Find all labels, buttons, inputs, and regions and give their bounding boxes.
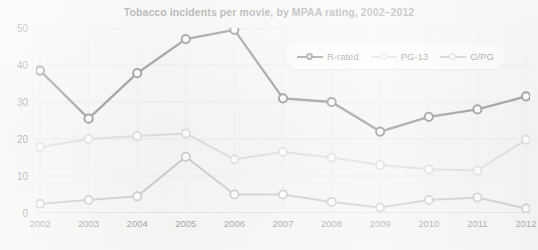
x-axis-tick-label: 2010 bbox=[418, 218, 439, 229]
x-axis-tick-label: 2011 bbox=[467, 218, 487, 229]
y-axis-tick-label: 10 bbox=[17, 171, 28, 182]
legend-swatch-icon bbox=[297, 52, 323, 62]
data-point bbox=[36, 200, 44, 208]
legend-item-r-rated[interactable]: R-rated bbox=[297, 51, 359, 62]
legend-item-pg-13[interactable]: PG-13 bbox=[371, 51, 428, 62]
data-point bbox=[279, 190, 287, 198]
y-axis-tick-label: 50 bbox=[17, 23, 28, 34]
data-point bbox=[182, 129, 190, 137]
x-axis-tick-label: 2004 bbox=[127, 218, 148, 229]
x-axis: 2002200320042005200620072008200920102011… bbox=[36, 218, 530, 240]
x-axis-tick-label: 2006 bbox=[224, 218, 245, 229]
data-point bbox=[230, 190, 238, 198]
data-point bbox=[36, 143, 44, 151]
data-point bbox=[85, 115, 93, 123]
data-point bbox=[376, 128, 384, 136]
data-point bbox=[230, 155, 238, 163]
data-point bbox=[522, 92, 530, 100]
legend-swatch-icon bbox=[440, 52, 466, 62]
legend-label: R-rated bbox=[327, 51, 359, 62]
x-axis-tick-label: 2002 bbox=[29, 218, 50, 229]
data-point bbox=[328, 198, 336, 206]
x-axis-tick-label: 2012 bbox=[515, 218, 536, 229]
data-point bbox=[36, 66, 44, 74]
chart-legend: R-ratedPG-13G/PG bbox=[286, 44, 505, 69]
data-point bbox=[473, 193, 481, 201]
data-point bbox=[522, 136, 530, 144]
data-point bbox=[425, 113, 433, 121]
data-point bbox=[182, 153, 190, 161]
data-point bbox=[182, 35, 190, 43]
y-axis-tick-label: 30 bbox=[17, 97, 28, 108]
x-axis-tick-label: 2003 bbox=[78, 218, 99, 229]
data-point bbox=[425, 196, 433, 204]
x-axis-tick-label: 2005 bbox=[175, 218, 196, 229]
y-axis-tick-label: 40 bbox=[17, 60, 28, 71]
x-axis-tick-label: 2007 bbox=[272, 218, 293, 229]
data-point bbox=[279, 94, 287, 102]
data-point bbox=[522, 204, 530, 212]
y-axis-tick-label: 0 bbox=[22, 208, 28, 219]
data-point bbox=[473, 105, 481, 113]
legend-item-g-pg[interactable]: G/PG bbox=[440, 51, 494, 62]
data-point bbox=[425, 165, 433, 173]
data-point bbox=[376, 203, 384, 211]
legend-swatch-icon bbox=[371, 52, 397, 62]
data-point bbox=[133, 69, 141, 77]
x-axis-tick-label: 2008 bbox=[321, 218, 342, 229]
data-point bbox=[328, 153, 336, 161]
x-axis-tick-label: 2009 bbox=[370, 218, 391, 229]
y-axis-tick-label: 20 bbox=[17, 134, 28, 145]
data-point bbox=[133, 192, 141, 200]
data-point bbox=[85, 196, 93, 204]
data-point bbox=[85, 135, 93, 143]
data-point bbox=[279, 148, 287, 156]
data-point bbox=[230, 28, 238, 34]
legend-label: PG-13 bbox=[401, 51, 428, 62]
legend-label: G/PG bbox=[470, 51, 494, 62]
data-point bbox=[376, 161, 384, 169]
data-point bbox=[133, 132, 141, 140]
data-point bbox=[328, 98, 336, 106]
chart-title: Tobacco incidents per movie, by MPAA rat… bbox=[0, 6, 538, 18]
y-axis: 01020304050 bbox=[0, 28, 32, 213]
data-point bbox=[473, 166, 481, 174]
